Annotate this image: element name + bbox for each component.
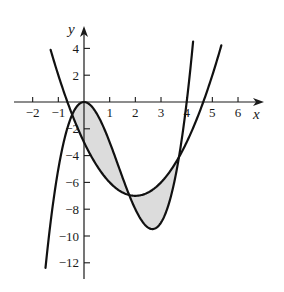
y-tick-label: 2 xyxy=(73,68,80,83)
shaded-region xyxy=(72,102,179,229)
axes xyxy=(14,26,264,279)
x-tick-label: 1 xyxy=(106,105,113,120)
y-tick-label: −12 xyxy=(59,255,79,270)
y-tick-label: −4 xyxy=(65,148,79,163)
x-tick-label: 5 xyxy=(209,105,216,120)
x-tick-label: −1 xyxy=(51,105,65,120)
x-axis-label: x xyxy=(252,106,260,122)
y-tick-label: −8 xyxy=(65,202,79,217)
chart: −2−112345642−2−4−6−8−10−12 x y xyxy=(0,0,284,292)
y-axis-label: y xyxy=(66,21,75,37)
y-tick-label: −10 xyxy=(59,229,79,244)
shaded-area xyxy=(72,102,179,229)
y-tick-label: 4 xyxy=(73,41,80,56)
x-tick-label: 6 xyxy=(235,105,242,120)
x-tick-label: 2 xyxy=(132,105,139,120)
x-tick-label: 3 xyxy=(158,105,165,120)
x-tick-label: −2 xyxy=(26,105,40,120)
y-tick-label: −6 xyxy=(65,175,79,190)
